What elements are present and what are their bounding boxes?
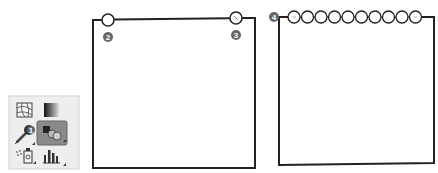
start-circle[interactable] [102,14,114,26]
tool-panel: 1 [9,96,79,169]
blend-step-circle [302,11,314,23]
callout-label-1: 1 [29,126,34,135]
blend-step-circle [356,11,368,23]
callout-label-3: 3 [234,31,239,40]
blend-step-circle [396,11,408,23]
diagram-canvas: 1 [0,0,438,173]
left-blend-panel: 2 3 [93,12,255,168]
right-blend-panel: 4 [269,11,434,165]
blend-step-circle [329,11,341,23]
callout-badge-2: 2 [103,32,113,42]
gradient-tool-icon[interactable] [44,103,59,117]
blend-step-circle [369,11,381,23]
callout-badge-3: 3 [231,30,241,40]
callout-badge-4: 4 [269,12,279,22]
callout-label-2: 2 [106,33,111,42]
blend-step-circle [342,11,354,23]
blend-step-circle [383,11,395,23]
blend-step-circle [315,11,327,23]
mesh-tool-icon[interactable] [17,103,32,117]
blend-tool-button[interactable] [37,121,67,145]
callout-label-4: 4 [272,13,277,22]
